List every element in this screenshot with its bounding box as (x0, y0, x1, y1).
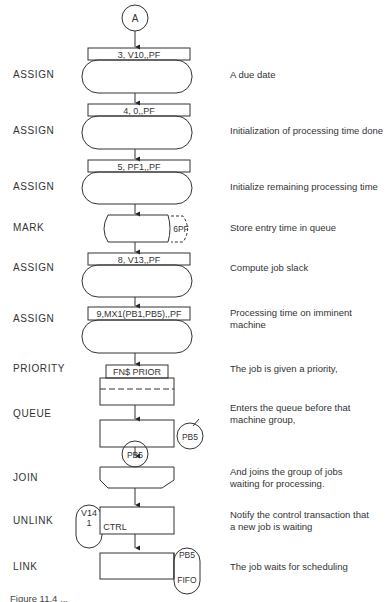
comment-line: machine (230, 319, 352, 331)
block-label-link: LINK (13, 561, 38, 572)
comment-line: And joins the group of jobs (230, 466, 343, 478)
comment-join: And joins the group of jobs waiting for … (230, 466, 343, 490)
comment-line: Notify the control transaction that (230, 509, 369, 521)
comment-unlink: Notify the control transaction that a ne… (230, 509, 369, 533)
assign-1-operand: 3, V10,,PF (118, 50, 161, 60)
assign-5-operand: 9,MX1(PB1,PB5),,PF (96, 309, 182, 319)
block-label-assign-2: ASSIGN (13, 125, 54, 136)
block-label-assign-1: ASSIGN (13, 69, 54, 80)
assign-2-operand: 4, 0,,PF (123, 106, 155, 116)
block-label-assign-4: ASSIGN (13, 262, 54, 273)
comment-priority: The job is given a priority, (230, 363, 338, 375)
comment-line: Processing time on imminent (230, 307, 352, 319)
block-label-join: JOIN (13, 472, 38, 483)
queue-operand: PB5 (182, 432, 198, 442)
assign-1-block (82, 60, 192, 93)
assign-3-operand: 5, PF1,,PF (117, 162, 161, 172)
assign-4-operand: 8, V13,,PF (118, 255, 161, 265)
block-label-assign-3: ASSIGN (13, 181, 54, 192)
comment-line: machine group, (230, 414, 350, 426)
comment-queue: Enters the queue before that machine gro… (230, 402, 350, 426)
comment-line: Enters the queue before that (230, 402, 350, 414)
block-label-unlink: UNLINK (13, 515, 53, 526)
mark-operand: 6PF (173, 224, 189, 234)
mark-block (104, 215, 170, 242)
link-operand-top: PB5 (179, 550, 195, 560)
unlink-operand-mid: 1 (86, 518, 91, 528)
block-label-assign-5: ASSIGN (13, 313, 54, 324)
unlink-operand-inner: CTRL (103, 522, 127, 532)
unlink-operand-top: V14 (81, 508, 97, 518)
comment-assign-5: Processing time on imminent machine (230, 307, 352, 331)
priority-operand: FN$ PRIOR (113, 367, 162, 377)
queue-block (100, 420, 174, 447)
comment-line: a new job is waiting (230, 521, 369, 533)
comment-assign-3: Initialize remaining processing time (230, 181, 378, 193)
join-block (100, 467, 174, 488)
block-label-mark: MARK (13, 222, 44, 233)
comment-assign-4: Compute job slack (230, 262, 308, 274)
link-operand-bottom: FIFO (177, 575, 197, 585)
comment-assign-1: A due date (230, 69, 275, 81)
comment-assign-2: Initialization of processing time done (230, 125, 383, 137)
comment-line: waiting for processing. (230, 478, 343, 490)
figure-caption: Figure 11.4 ... (10, 593, 68, 602)
comment-link: The job waits for scheduling (230, 561, 348, 573)
join-operand: PB5 (127, 450, 143, 460)
comment-mark: Store entry time in queue (230, 222, 336, 234)
block-label-priority: PRIORITY (13, 363, 65, 374)
connector-a-label: A (132, 13, 139, 24)
block-label-queue: QUEUE (13, 408, 52, 419)
